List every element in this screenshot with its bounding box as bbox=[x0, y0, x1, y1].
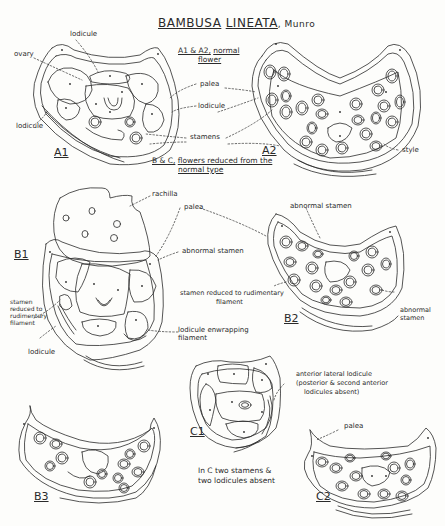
title-genus: BAMBUSA bbox=[158, 16, 221, 30]
figure-label-b3: B3 bbox=[34, 490, 49, 503]
botanical-drawing bbox=[0, 0, 445, 526]
figure-label-a1: A1 bbox=[54, 146, 69, 159]
label-abnormal-stamen-b2-right: abnormal stamen bbox=[400, 306, 431, 322]
label-rachilla: rachilla bbox=[152, 190, 178, 198]
figure-label-b2: B2 bbox=[284, 312, 299, 325]
label-lodicule-enwrapping: lodicule enwrapping filament bbox=[178, 326, 249, 342]
label-stamens: stamens bbox=[190, 133, 220, 141]
label-lodicule-a: lodicule bbox=[198, 102, 225, 110]
label-stamen-reduced-b1: stamen reduced to rudimentary filament bbox=[10, 298, 47, 326]
label-palea-a: palea bbox=[200, 80, 219, 88]
label-lodicule-a1-left: lodicule bbox=[16, 122, 43, 130]
figure-label-a2: A2 bbox=[262, 144, 277, 157]
label-abnormal-stamen-b1: abnormal stamen bbox=[182, 247, 244, 255]
label-lodicule-top: lodicule bbox=[70, 30, 97, 38]
title-species: LINEATA bbox=[226, 16, 278, 30]
note-c: In C two stamens & two lodicules absent bbox=[198, 466, 275, 486]
plate-title: BAMBUSA LINEATA, Munro bbox=[158, 16, 315, 30]
figure-c2-drawing bbox=[304, 428, 436, 518]
figure-b1-drawing bbox=[42, 188, 163, 370]
label-abnormal-stamen-b2-top: abnormal stamen bbox=[290, 202, 352, 210]
figure-label-b1: B1 bbox=[14, 248, 29, 261]
label-stamen-reduced-b2: stamen reduced to rudimentary filament bbox=[180, 289, 284, 307]
figure-b3-drawing bbox=[19, 406, 161, 503]
label-palea-b: palea bbox=[184, 203, 203, 211]
section-header-a: A1 & A2, normal flower bbox=[178, 46, 239, 64]
label-lodicule-b1: lodicule bbox=[28, 348, 55, 356]
figure-label-c1: C1 bbox=[190, 425, 205, 438]
label-ovary: ovary bbox=[14, 50, 34, 58]
figure-label-c2: C2 bbox=[316, 490, 331, 503]
section-header-bc: B & C, flowers reduced from the normal t… bbox=[152, 156, 272, 174]
label-style: style bbox=[402, 146, 419, 154]
figure-a2-drawing bbox=[252, 43, 421, 177]
label-palea-c2: palea bbox=[344, 422, 363, 430]
label-anterior-lateral-lodicule: anterior lateral lodicule (posterior & s… bbox=[296, 370, 388, 397]
title-author: , Munro bbox=[278, 19, 315, 29]
